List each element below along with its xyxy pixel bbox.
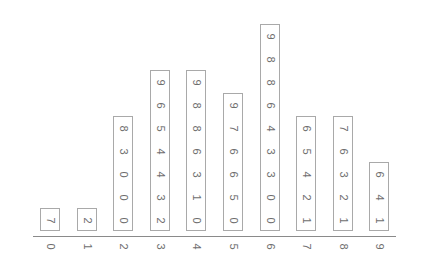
leaf-value: 7 <box>224 117 242 140</box>
stem-label-1: 1 <box>77 238 97 254</box>
leaf-value: 9 <box>224 94 242 117</box>
leaf-value: 4 <box>261 117 279 140</box>
leaf-value: 7 <box>334 117 352 140</box>
leaf-box-stem-3: 2344569 <box>150 70 170 231</box>
leaf-value: 3 <box>151 186 169 209</box>
leaf-box-stem-5: 056679 <box>223 93 243 231</box>
leaf-box-stem-4: 0136889 <box>186 70 206 231</box>
stem-label-4: 4 <box>186 238 206 254</box>
leaf-value: 0 <box>187 209 205 232</box>
leaf-value: 0 <box>224 209 242 232</box>
leaf-value: 4 <box>151 163 169 186</box>
leaf-value: 3 <box>187 163 205 186</box>
leaf-box-stem-0: 7 <box>40 208 60 231</box>
leaf-value: 5 <box>224 186 242 209</box>
leaf-value: 0 <box>114 163 132 186</box>
leaf-value: 8 <box>261 71 279 94</box>
leaf-value: 9 <box>151 71 169 94</box>
leaf-value: 3 <box>334 163 352 186</box>
leaf-value: 0 <box>261 186 279 209</box>
stem-label-6: 6 <box>260 238 280 254</box>
leaf-value: 6 <box>187 140 205 163</box>
stem-and-leaf-chart: 7021000382234456930136889405667950033468… <box>0 0 422 268</box>
stem-label-9: 9 <box>369 238 389 254</box>
leaf-value: 8 <box>187 94 205 117</box>
stem-label-7: 7 <box>296 238 316 254</box>
leaf-box-stem-6: 003346889 <box>260 24 280 231</box>
leaf-value: 5 <box>297 140 315 163</box>
leaf-value: 3 <box>261 140 279 163</box>
leaf-value: 7 <box>41 209 59 232</box>
stem-label-5: 5 <box>223 238 243 254</box>
leaf-value: 8 <box>261 48 279 71</box>
leaf-value: 8 <box>114 117 132 140</box>
leaf-value: 4 <box>297 163 315 186</box>
leaf-value: 6 <box>297 117 315 140</box>
leaf-value: 4 <box>151 140 169 163</box>
leaf-value: 2 <box>78 209 96 232</box>
leaf-value: 6 <box>224 140 242 163</box>
leaf-value: 6 <box>224 163 242 186</box>
leaf-box-stem-7: 12456 <box>296 116 316 231</box>
stem-label-3: 3 <box>150 238 170 254</box>
stem-label-8: 8 <box>333 238 353 254</box>
leaf-value: 3 <box>114 140 132 163</box>
leaf-box-stem-9: 146 <box>369 162 389 231</box>
leaf-value: 4 <box>370 186 388 209</box>
leaf-value: 6 <box>261 94 279 117</box>
leaf-value: 2 <box>334 186 352 209</box>
leaf-value: 6 <box>151 94 169 117</box>
leaf-value: 6 <box>370 163 388 186</box>
leaf-value: 0 <box>261 209 279 232</box>
leaf-value: 2 <box>297 186 315 209</box>
x-axis-line <box>33 236 396 237</box>
leaf-box-stem-1: 2 <box>77 208 97 231</box>
leaf-value: 1 <box>370 209 388 232</box>
leaf-value: 9 <box>261 25 279 48</box>
leaf-value: 1 <box>297 209 315 232</box>
leaf-value: 6 <box>334 140 352 163</box>
leaf-value: 1 <box>187 186 205 209</box>
leaf-value: 8 <box>187 117 205 140</box>
leaf-value: 1 <box>334 209 352 232</box>
leaf-value: 9 <box>187 71 205 94</box>
leaf-value: 3 <box>261 163 279 186</box>
leaf-box-stem-8: 12367 <box>333 116 353 231</box>
stem-label-2: 2 <box>113 238 133 254</box>
leaf-box-stem-2: 00038 <box>113 116 133 231</box>
leaf-value: 5 <box>151 117 169 140</box>
leaf-value: 2 <box>151 209 169 232</box>
leaf-value: 0 <box>114 186 132 209</box>
leaf-value: 0 <box>114 209 132 232</box>
stem-label-0: 0 <box>40 238 60 254</box>
